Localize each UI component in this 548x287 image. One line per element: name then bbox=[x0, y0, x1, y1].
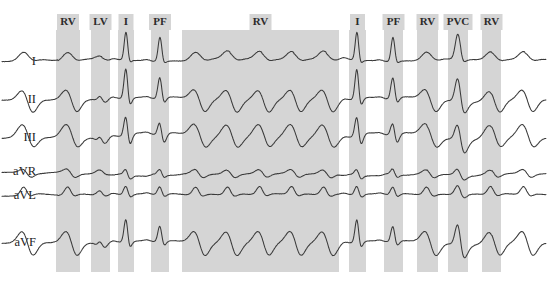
annotation-band bbox=[118, 30, 134, 272]
annotation-band-label: PF bbox=[153, 15, 167, 27]
annotation-band-label: I bbox=[124, 15, 128, 27]
annotation-band bbox=[448, 30, 468, 272]
ecg-figure: RVLVIPFRVIPFRVPVCRV IIIIIIaVRaVLaVF bbox=[0, 0, 548, 287]
annotation-band-label: RV bbox=[420, 15, 436, 27]
annotation-band-label: PF bbox=[387, 15, 401, 27]
annotation-band-label: PVC bbox=[447, 15, 470, 27]
annotation-band-label: RV bbox=[253, 15, 269, 27]
annotation-band-label: I bbox=[355, 15, 359, 27]
annotation-band bbox=[91, 30, 110, 272]
ecg-canvas: RVLVIPFRVIPFRVPVCRV IIIIIIaVRaVLaVF bbox=[0, 0, 548, 287]
annotation-band bbox=[349, 30, 366, 272]
annotation-band-label: RV bbox=[60, 15, 76, 27]
annotation-band-label: LV bbox=[93, 15, 107, 27]
annotation-band bbox=[56, 30, 80, 272]
annotation-band bbox=[182, 30, 339, 272]
annotation-band bbox=[384, 30, 403, 272]
annotation-band bbox=[151, 30, 169, 272]
lead-label: II bbox=[28, 92, 36, 106]
annotation-band-label: RV bbox=[484, 15, 500, 27]
